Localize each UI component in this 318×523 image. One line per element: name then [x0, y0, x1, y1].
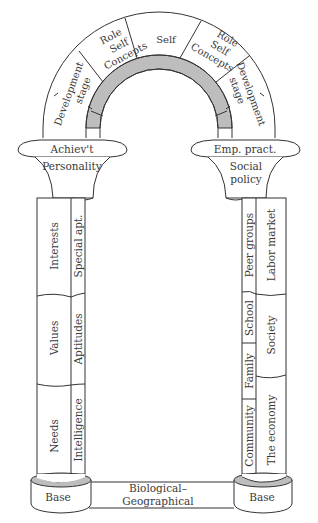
- left-inner-aptitudes: Aptitudes: [72, 313, 84, 365]
- left-capital-top-label: Achiev't: [50, 143, 95, 155]
- left-inner-special-apt: Special apt.: [72, 215, 84, 278]
- foundation-label-line2: Geographical: [122, 495, 194, 507]
- left-outer-values: Values: [48, 321, 60, 357]
- right-outer-the-economy: The economy: [265, 395, 277, 466]
- right-inner-community: Community: [243, 405, 255, 466]
- left-capital-label: Personality: [42, 160, 101, 172]
- right-outer-society: Society: [265, 315, 277, 354]
- right-capital-label-line1: Social: [230, 160, 263, 172]
- arch-self-label: Self: [156, 34, 177, 45]
- right-capital-label-line2: policy: [230, 173, 262, 185]
- left-outer-needs: Needs: [48, 419, 60, 453]
- left-inner-intelligence: Intelligence: [72, 398, 84, 461]
- archway-of-career-determinants-diagram: Self Role Self Concepts Role Self Concep…: [0, 0, 318, 523]
- right-base-label: Base: [249, 491, 275, 503]
- left-outer-interests: Interests: [48, 222, 60, 270]
- right-inner-family: Family: [243, 353, 255, 389]
- right-inner-school: School: [243, 299, 255, 335]
- left-base-label: Base: [45, 491, 71, 503]
- foundation-label-line1: Biological–: [129, 482, 187, 494]
- right-inner-peer-groups: Peer groups: [243, 213, 255, 277]
- right-capital-top-label: Emp. pract.: [214, 143, 276, 155]
- arch-labels: Self Role Self Concepts Role Self Concep…: [52, 19, 268, 132]
- right-outer-labor-market: Labor market: [265, 208, 277, 281]
